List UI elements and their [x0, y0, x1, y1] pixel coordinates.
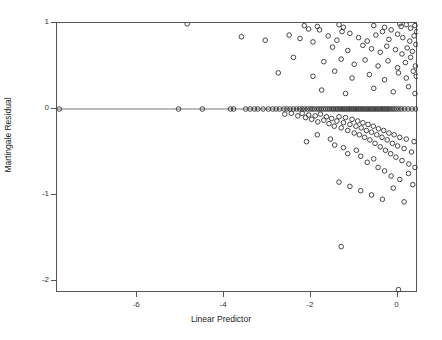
scatter-point [378, 145, 383, 150]
scatter-point [376, 165, 381, 170]
scatter-point [387, 131, 392, 136]
y-tick-mark [51, 108, 56, 109]
scatter-point [368, 138, 373, 143]
scatter-point [413, 91, 418, 96]
scatter-point [369, 130, 374, 135]
scatter-point [393, 47, 398, 52]
scatter-point [339, 57, 344, 62]
scatter-point [412, 34, 417, 39]
scatter-point [311, 74, 316, 79]
scatter-point [406, 84, 411, 89]
x-tick-label: -2 [300, 300, 320, 309]
scatter-point [337, 180, 342, 185]
scatter-point [387, 37, 392, 42]
scatter-point [385, 138, 390, 143]
scatter-point [407, 162, 412, 167]
scatter-point [356, 35, 361, 40]
scatter-point [382, 169, 387, 174]
scatter-point [358, 154, 363, 159]
scatter-point [354, 148, 359, 153]
scatter-point [382, 77, 387, 82]
scatter-point [306, 113, 311, 118]
x-tick-mark [223, 292, 224, 297]
scatter-point [324, 114, 329, 119]
scatter-point [402, 146, 407, 151]
scatter-point [365, 160, 370, 165]
scatter-point [410, 182, 415, 187]
scatter-point [414, 42, 418, 47]
scatter-point [376, 64, 381, 69]
scatter-point [401, 35, 406, 40]
scatter-point [365, 39, 370, 44]
scatter-point [330, 45, 335, 50]
scatter-point [340, 29, 345, 34]
scatter-point [404, 76, 409, 81]
scatter-point [291, 55, 296, 60]
scatter-point [400, 52, 405, 57]
scatter-point [414, 74, 418, 79]
scatter-point [407, 39, 412, 44]
scatter-point [367, 72, 372, 77]
scatter-point [345, 128, 350, 133]
scatter-point [366, 122, 371, 127]
scatter-point [389, 28, 394, 33]
scatter-point [395, 32, 400, 37]
scatter-point [345, 151, 350, 156]
scatter-point [391, 186, 396, 191]
scatter-point [410, 49, 415, 54]
martingale-residual-scatter-figure: Martingale Residual -6-4-2010-1-2 Linear… [0, 0, 442, 340]
scatter-point [378, 50, 383, 55]
scatter-point [335, 38, 340, 43]
scatter-point [389, 174, 394, 179]
x-tick-mark [136, 292, 137, 297]
scatter-point [371, 23, 376, 28]
scatter-point [304, 139, 309, 144]
y-axis-label-text: Martingale Residual [3, 97, 13, 172]
plot-area [56, 22, 417, 292]
scatter-point [369, 193, 374, 198]
scatter-point [303, 115, 308, 120]
scatter-point [348, 184, 353, 189]
scatter-point [384, 44, 389, 49]
scatter-points-layer [57, 23, 418, 293]
scatter-point [341, 120, 346, 125]
scatter-point [388, 151, 393, 156]
scatter-point [319, 88, 324, 93]
scatter-point [339, 126, 344, 131]
scatter-point [380, 29, 385, 34]
scatter-point [332, 69, 337, 74]
scatter-point [358, 188, 363, 193]
scatter-point [361, 120, 366, 125]
scatter-point [329, 116, 334, 121]
scatter-point [359, 126, 364, 131]
scatter-point [326, 34, 331, 39]
scatter-point [306, 27, 311, 32]
scatter-point [380, 197, 385, 202]
scatter-point [355, 119, 360, 124]
scatter-point [374, 132, 379, 137]
scatter-point [397, 135, 402, 140]
scatter-point [395, 144, 400, 149]
scatter-point [318, 112, 323, 117]
scatter-point [350, 76, 355, 81]
y-tick-label: 1 [32, 17, 49, 26]
y-tick-label: -1 [32, 189, 49, 198]
scatter-point [337, 23, 342, 27]
scatter-point [362, 135, 367, 140]
scatter-point [390, 141, 395, 146]
scatter-point [296, 114, 301, 119]
scatter-point [341, 145, 346, 150]
scatter-point [409, 150, 414, 155]
scatter-point [391, 89, 396, 94]
scatter-point [369, 47, 374, 52]
scatter-point [350, 117, 355, 122]
scatter-point [328, 137, 333, 142]
scatter-point [396, 71, 401, 76]
scatter-point [364, 128, 369, 133]
x-tick-label: 0 [387, 300, 407, 309]
scatter-point [352, 131, 357, 136]
scatter-point [276, 71, 281, 76]
scatter-point [357, 132, 362, 137]
scatter-point [332, 143, 337, 148]
scatter-point [371, 124, 376, 129]
